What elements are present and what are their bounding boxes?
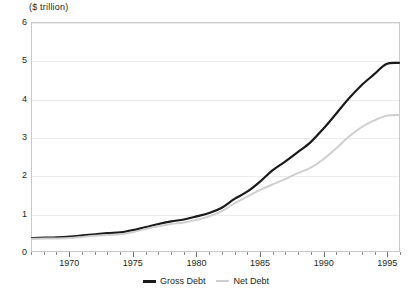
x-axis-tick	[120, 252, 121, 255]
legend-swatch-gross-debt-icon	[143, 280, 156, 283]
plot-area	[31, 22, 400, 252]
x-axis-tick	[158, 252, 159, 255]
x-axis-tick-label: 1990	[314, 258, 334, 268]
y-axis-tick-label: 6	[5, 18, 27, 27]
x-axis-tick	[171, 252, 172, 255]
x-axis-tick	[56, 252, 57, 255]
legend-label-gross-debt: Gross Debt	[160, 276, 206, 286]
x-axis-tick	[273, 252, 274, 255]
chart-title: ($ trillion)	[29, 2, 68, 12]
x-axis-tick	[82, 252, 83, 255]
x-axis: 197019751980198519901995	[0, 258, 412, 272]
x-axis-tick-label: 1980	[186, 258, 206, 268]
x-axis-tick	[209, 252, 210, 255]
legend-item-gross-debt: Gross Debt	[143, 276, 206, 286]
legend-item-net-debt: Net Debt	[216, 276, 269, 286]
y-axis: 6543210	[0, 0, 27, 291]
y-axis-tick-label: 2	[5, 171, 27, 180]
x-axis-tick	[31, 252, 32, 255]
x-axis-tick	[95, 252, 96, 255]
y-axis-tick-label: 1	[5, 210, 27, 219]
x-axis-tick	[69, 252, 70, 257]
chart-legend: Gross Debt Net Debt	[0, 274, 412, 288]
chart-container: ($ trillion) 6543210 1970197519801985199…	[0, 0, 412, 291]
x-axis-tick-label: 1995	[377, 258, 397, 268]
x-axis-tick	[184, 252, 185, 255]
x-axis-tick	[349, 252, 350, 255]
x-axis-tick	[107, 252, 108, 255]
x-axis-tick	[311, 252, 312, 255]
x-axis-tick	[387, 252, 388, 257]
x-axis-tick	[146, 252, 147, 255]
x-axis-tick-label: 1975	[123, 258, 143, 268]
series-line-net-debt	[32, 115, 399, 239]
legend-label-net-debt: Net Debt	[233, 276, 269, 286]
x-axis-tick	[324, 252, 325, 257]
x-axis-tick	[298, 252, 299, 255]
y-axis-tick-label: 0	[5, 248, 27, 257]
x-axis-tick	[375, 252, 376, 255]
y-axis-tick-label: 5	[5, 56, 27, 65]
x-axis-tick-label: 1970	[59, 258, 79, 268]
x-axis-tick	[336, 252, 337, 255]
x-axis-tick	[400, 252, 401, 255]
x-axis-tick	[222, 252, 223, 255]
y-axis-tick-label: 3	[5, 133, 27, 142]
series-lines	[32, 23, 399, 251]
x-axis-tick	[247, 252, 248, 255]
series-line-gross-debt	[32, 63, 399, 238]
legend-swatch-net-debt-icon	[216, 280, 229, 282]
x-axis-tick	[362, 252, 363, 255]
x-axis-tick	[133, 252, 134, 257]
x-axis-tick	[235, 252, 236, 255]
x-axis-tick-label: 1985	[250, 258, 270, 268]
x-axis-tick	[44, 252, 45, 255]
x-axis-tick	[285, 252, 286, 255]
x-axis-tick	[196, 252, 197, 257]
y-axis-tick-label: 4	[5, 95, 27, 104]
x-axis-tick	[260, 252, 261, 257]
